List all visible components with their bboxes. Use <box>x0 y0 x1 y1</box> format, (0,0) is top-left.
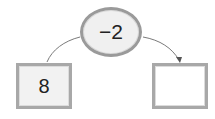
operation-oval: −2 <box>80 7 142 57</box>
operation-label: −2 <box>99 20 123 44</box>
input-box: 8 <box>16 63 72 109</box>
output-box[interactable] <box>152 63 208 109</box>
input-value: 8 <box>38 75 49 98</box>
